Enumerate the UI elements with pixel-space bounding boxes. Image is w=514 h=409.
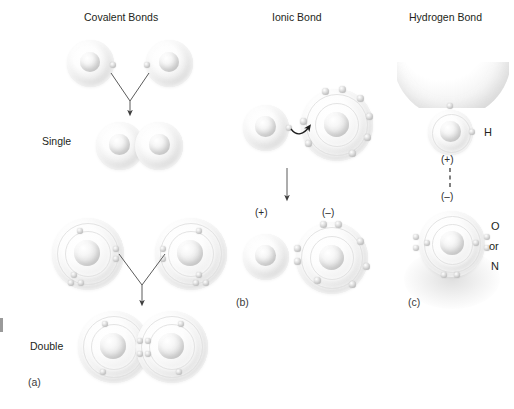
acceptor-partial-charge: (–) [441, 192, 453, 202]
nucleus-icon [158, 333, 184, 359]
electron-dot [413, 245, 419, 251]
nucleus-icon [74, 240, 100, 266]
electron-dot [196, 228, 202, 234]
electron-dot [193, 280, 199, 286]
electron-dot [102, 321, 108, 327]
hydrogen-atom [428, 110, 473, 155]
electron-dot [366, 113, 373, 120]
electron-dot [294, 245, 301, 252]
hydrogen-label: H [484, 127, 492, 138]
panel-c-title: Hydrogen Bond [409, 12, 482, 23]
electron-dot [113, 256, 119, 262]
electron-dot [196, 272, 202, 278]
nucleus-icon [440, 121, 461, 142]
electron-dot [473, 240, 479, 246]
panel-a-title: Covalent Bonds [84, 12, 158, 23]
ionic-donor-atom [243, 105, 289, 151]
hydrogen-atom-right [146, 40, 193, 87]
electron-dot [322, 88, 329, 95]
panel-c-letter: (c) [408, 297, 420, 308]
transferred-electron-dot [286, 125, 292, 131]
hydrogen-atom-left [67, 40, 114, 87]
anion-charge-label: (–) [322, 208, 334, 218]
double-bond-label: Double [30, 341, 63, 352]
shared-electron-dot [137, 351, 143, 357]
nucleus-icon [159, 52, 179, 72]
electron-dot [314, 277, 321, 284]
electron-dot [339, 86, 346, 93]
nucleus-icon [255, 116, 276, 137]
electron-dot [68, 280, 74, 286]
electron-dot [364, 134, 371, 141]
nucleus-icon [319, 245, 344, 270]
panel-b-title: Ionic Bond [272, 12, 322, 23]
electron-dot [357, 95, 364, 102]
nucleus-icon [440, 231, 464, 255]
nucleus-icon [109, 134, 130, 155]
electron-dot [349, 150, 356, 157]
panel-a-letter: (a) [28, 377, 41, 388]
electron-dot [357, 238, 364, 245]
electron-dot [305, 140, 312, 147]
electron-dot [160, 246, 166, 252]
shared-electron-dot [137, 338, 143, 344]
oxygen-atom-right [155, 218, 227, 290]
electron-dot [447, 103, 453, 109]
cation-atom [243, 234, 289, 280]
donor-molecule-sphere [397, 62, 509, 108]
electron-dot [320, 221, 327, 228]
shared-electron-dot [145, 338, 151, 344]
electron-dot [424, 240, 430, 246]
electron-dot [203, 280, 209, 286]
oxygen-atom-left [52, 218, 124, 290]
nucleus-icon [177, 240, 203, 266]
double-bond-atom-right [136, 311, 208, 383]
anion-atom [296, 222, 368, 294]
electron-dot [335, 221, 342, 228]
nucleus-icon [149, 134, 170, 155]
electron-dot [300, 118, 307, 125]
chemical-bonds-figure: Covalent Bonds Single Double [0, 0, 514, 409]
electron-dot [176, 369, 182, 375]
electron-dot [71, 272, 77, 278]
nucleus-icon [324, 112, 349, 137]
electron-dot [77, 228, 83, 234]
single-bond-label: Single [42, 136, 71, 147]
scan-edge-tick [0, 318, 3, 332]
electron-dot [78, 280, 84, 286]
acceptor-conjunction-label: or [489, 241, 499, 252]
electron-dot [349, 281, 356, 288]
panel-b-letter: (b) [236, 297, 249, 308]
hydrogen-partial-charge: (+) [441, 155, 454, 165]
covalent-single-arrow [111, 73, 149, 113]
electron-dot [363, 263, 370, 270]
single-bond-atom-right [135, 122, 183, 170]
acceptor-secondary-label: N [491, 261, 499, 272]
cation-charge-label: (+) [255, 208, 268, 218]
electron-dot [469, 129, 475, 135]
electron-dot [100, 369, 106, 375]
electron-dot [113, 246, 119, 252]
donor-molecule-clip [397, 62, 509, 108]
electron-dot [454, 272, 460, 278]
electron-dot [178, 321, 184, 327]
nucleus-icon [100, 333, 126, 359]
electron-dot [441, 272, 447, 278]
electron-dot [110, 62, 116, 68]
nucleus-icon [80, 52, 100, 72]
electron-dot [144, 62, 150, 68]
electron-dot [413, 234, 419, 240]
electron-dot [160, 256, 166, 262]
acceptor-primary-label: O [491, 221, 500, 232]
nucleus-icon [255, 245, 276, 266]
shared-electron-dot [145, 351, 151, 357]
electron-dot [294, 258, 301, 265]
